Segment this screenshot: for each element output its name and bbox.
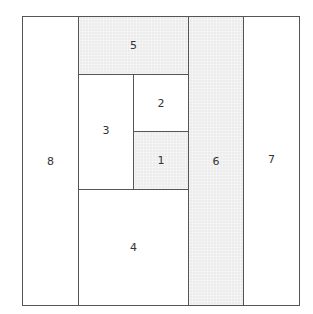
region-7-label: 7 — [268, 153, 275, 166]
region-2-label: 2 — [158, 97, 165, 110]
region-5: 5 — [78, 16, 189, 75]
region-6: 6 — [188, 16, 244, 306]
region-7: 7 — [243, 16, 300, 306]
region-1-label: 1 — [158, 154, 165, 167]
region-3: 3 — [78, 74, 134, 190]
region-8-label: 8 — [47, 155, 54, 168]
region-6-label: 6 — [213, 155, 220, 168]
region-3-label: 3 — [103, 124, 110, 137]
region-4: 4 — [78, 189, 189, 306]
region-4-label: 4 — [130, 241, 137, 254]
region-8: 8 — [22, 16, 79, 306]
region-2: 2 — [133, 74, 189, 132]
rectangle-subdivision-diagram: 8 5 3 2 1 4 6 7 — [0, 0, 313, 314]
region-1: 1 — [133, 131, 189, 190]
region-5-label: 5 — [130, 39, 137, 52]
